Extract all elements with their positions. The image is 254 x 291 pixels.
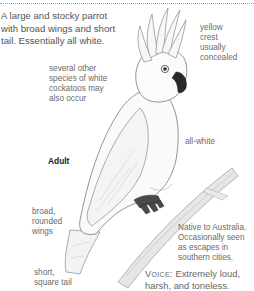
similar-species-annotation: several other species of white cockatoos… bbox=[49, 64, 107, 104]
age-label: Adult bbox=[48, 156, 69, 166]
voice-label: Voice: bbox=[145, 268, 173, 279]
wings-annotation: broad, rounded wings bbox=[32, 207, 62, 237]
crest-annotation: yellow crest usually concealed bbox=[200, 23, 237, 63]
voice-description: Voice: Extremely loud, harsh, and tonele… bbox=[145, 268, 240, 291]
species-description: A large and stocky parrot with broad win… bbox=[1, 10, 121, 48]
body-illustration bbox=[80, 88, 179, 234]
range-annotation: Native to Australia. Occasionally seen a… bbox=[178, 223, 246, 263]
body-annotation: all-white bbox=[185, 137, 215, 147]
feet-illustration bbox=[134, 195, 164, 214]
tail-annotation: short, square tail bbox=[34, 268, 72, 288]
